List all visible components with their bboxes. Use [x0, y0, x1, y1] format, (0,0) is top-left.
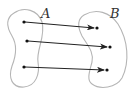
- point-a-2: [25, 39, 28, 42]
- mapping-arrow-3: [25, 67, 104, 70]
- point-b-3: [105, 68, 108, 71]
- point-b-1: [95, 26, 98, 29]
- point-a-3: [22, 65, 25, 68]
- set-a-label: A: [40, 6, 50, 21]
- set-b-label: B: [109, 6, 120, 21]
- point-a-1: [22, 20, 25, 23]
- mapping-diagram: A B: [0, 0, 137, 96]
- mapping-arrow-1: [25, 22, 94, 28]
- set-b-region: [79, 12, 127, 88]
- point-b-2: [108, 45, 111, 48]
